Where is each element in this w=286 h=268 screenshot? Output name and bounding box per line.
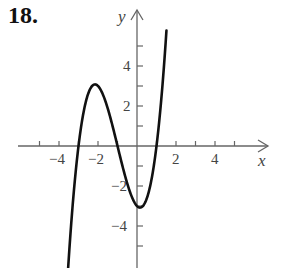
x-axis-label: x xyxy=(257,151,266,170)
x-tick-label: 2 xyxy=(172,151,180,167)
x-tick-label: −4 xyxy=(49,151,65,167)
y-tick-label: 4 xyxy=(123,58,131,74)
y-tick-label: −2 xyxy=(111,178,127,194)
y-tick-label: −4 xyxy=(111,218,127,234)
x-tick-label: −2 xyxy=(88,151,104,167)
y-axis-label: y xyxy=(116,7,126,26)
x-tick-label: 4 xyxy=(211,151,219,167)
y-tick-label: 2 xyxy=(123,98,131,114)
cubic-graph: −4 −2 2 4 4 2 −2 −4 x y xyxy=(0,0,286,268)
